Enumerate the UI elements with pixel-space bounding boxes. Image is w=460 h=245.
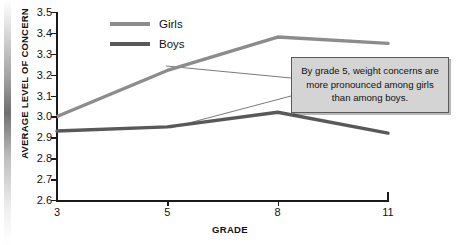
legend-swatch-girls xyxy=(110,22,150,25)
y-tick-mark xyxy=(51,116,57,117)
legend-item-boys: Boys xyxy=(110,34,185,54)
callout-leader-line xyxy=(166,66,291,78)
y-tick-mark xyxy=(51,12,57,13)
x-tick-mark xyxy=(167,200,168,206)
y-tick-mark xyxy=(51,137,57,138)
x-tick-mark xyxy=(278,200,279,206)
legend-label-boys: Boys xyxy=(159,38,185,50)
x-tick-label: 5 xyxy=(164,206,170,218)
y-tick-mark xyxy=(51,75,57,76)
x-tick-label: 8 xyxy=(275,206,281,218)
legend-swatch-boys xyxy=(110,42,150,45)
y-tick-mark xyxy=(51,158,57,159)
chart-figure: AVERAGE LEVEL OF CONCERN 3.53.43.33.23.1… xyxy=(0,0,460,245)
x-axis-title: GRADE xyxy=(0,224,460,235)
x-tick-label: 11 xyxy=(382,206,393,218)
y-tick-mark xyxy=(51,200,57,201)
y-tick-mark xyxy=(51,54,57,55)
series-line-boys xyxy=(57,112,388,133)
callout-annotation: By grade 5, weight concerns are more pro… xyxy=(291,57,449,113)
legend-label-girls: Girls xyxy=(159,18,183,30)
x-tick-label: 3 xyxy=(54,206,60,218)
legend-item-girls: Girls xyxy=(110,14,185,34)
y-tick-mark xyxy=(51,179,57,180)
y-tick-mark xyxy=(51,33,57,34)
y-tick-mark xyxy=(51,96,57,97)
chart-legend: Girls Boys xyxy=(110,14,185,54)
